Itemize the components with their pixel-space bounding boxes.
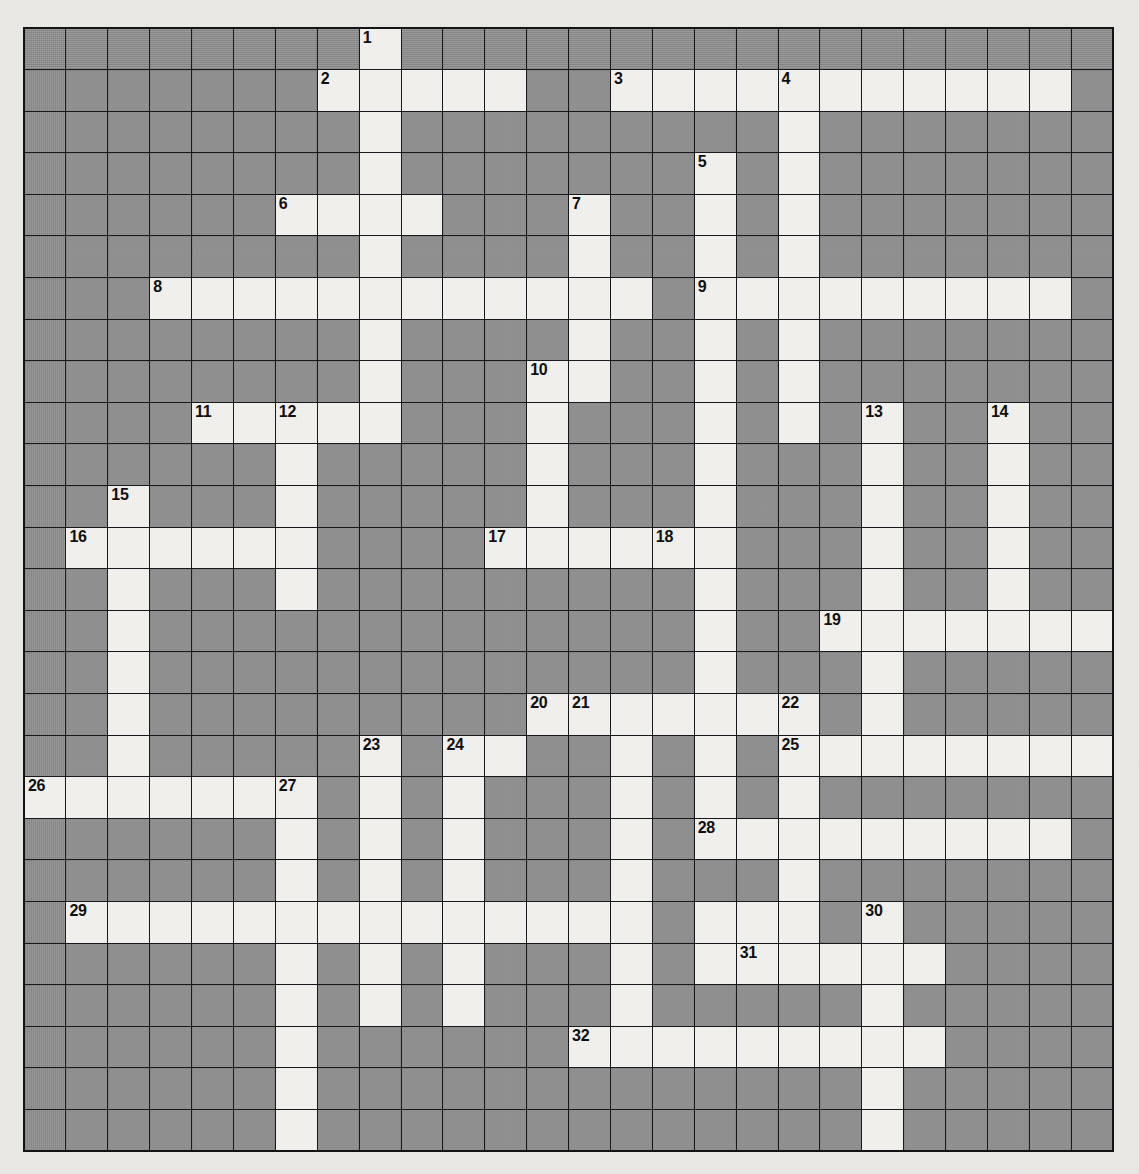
crossword-cell-open[interactable] [820, 943, 862, 985]
crossword-cell-open[interactable] [485, 901, 527, 943]
crossword-cell-open[interactable] [275, 486, 317, 528]
crossword-cell-open[interactable] [359, 153, 401, 195]
crossword-cell-open[interactable] [1029, 610, 1071, 652]
crossword-cell-open[interactable] [317, 278, 359, 320]
crossword-cell-open[interactable] [778, 111, 820, 153]
crossword-cell-open[interactable] [904, 278, 946, 320]
crossword-cell-open[interactable] [359, 860, 401, 902]
crossword-cell-open[interactable] [443, 818, 485, 860]
crossword-cell-open[interactable] [946, 610, 988, 652]
crossword-cell-open[interactable] [359, 236, 401, 278]
crossword-cell-open[interactable] [610, 943, 652, 985]
crossword-cell-open[interactable] [736, 1026, 778, 1068]
crossword-cell-open[interactable]: 18 [652, 527, 694, 569]
crossword-cell-open[interactable] [694, 943, 736, 985]
crossword-cell-open[interactable] [527, 486, 569, 528]
crossword-cell-open[interactable] [610, 527, 652, 569]
crossword-cell-open[interactable] [443, 777, 485, 819]
crossword-cell-open[interactable] [359, 319, 401, 361]
crossword-cell-open[interactable] [485, 70, 527, 112]
crossword-cell-open[interactable] [904, 610, 946, 652]
crossword-cell-open[interactable] [192, 278, 234, 320]
crossword-cell-open[interactable] [610, 1026, 652, 1068]
crossword-cell-open[interactable]: 3 [610, 70, 652, 112]
crossword-cell-open[interactable]: 19 [820, 610, 862, 652]
crossword-cell-open[interactable] [904, 818, 946, 860]
crossword-cell-open[interactable] [401, 70, 443, 112]
crossword-cell-open[interactable] [233, 901, 275, 943]
crossword-cell-open[interactable] [275, 985, 317, 1027]
crossword-cell-open[interactable] [987, 444, 1029, 486]
crossword-cell-open[interactable] [443, 985, 485, 1027]
crossword-cell-open[interactable] [359, 901, 401, 943]
crossword-cell-open[interactable] [736, 278, 778, 320]
crossword-cell-open[interactable] [108, 610, 150, 652]
crossword-cell-open[interactable]: 15 [108, 486, 150, 528]
crossword-cell-open[interactable] [862, 486, 904, 528]
crossword-cell-open[interactable] [946, 735, 988, 777]
crossword-cell-open[interactable] [610, 985, 652, 1027]
crossword-cell-open[interactable] [694, 901, 736, 943]
crossword-cell-open[interactable] [652, 1026, 694, 1068]
crossword-cell-open[interactable] [862, 985, 904, 1027]
crossword-cell-open[interactable]: 16 [66, 527, 108, 569]
crossword-cell-open[interactable] [359, 777, 401, 819]
crossword-cell-open[interactable] [150, 901, 192, 943]
crossword-cell-open[interactable] [987, 278, 1029, 320]
crossword-cell-open[interactable] [610, 278, 652, 320]
crossword-cell-open[interactable] [569, 319, 611, 361]
crossword-cell-open[interactable] [652, 70, 694, 112]
crossword-cell-open[interactable]: 29 [66, 901, 108, 943]
crossword-cell-open[interactable] [736, 901, 778, 943]
crossword-grid[interactable]: 1234567891011121314151617181920212223242… [23, 27, 1114, 1152]
crossword-cell-open[interactable] [862, 1026, 904, 1068]
crossword-cell-open[interactable] [275, 943, 317, 985]
crossword-cell-open[interactable] [569, 236, 611, 278]
crossword-cell-open[interactable]: 13 [862, 402, 904, 444]
crossword-cell-open[interactable] [778, 278, 820, 320]
crossword-cell-open[interactable] [862, 1109, 904, 1151]
crossword-cell-open[interactable]: 2 [317, 70, 359, 112]
crossword-cell-open[interactable] [862, 735, 904, 777]
crossword-cell-open[interactable]: 21 [569, 694, 611, 736]
crossword-cell-open[interactable] [359, 194, 401, 236]
crossword-cell-open[interactable] [862, 1068, 904, 1110]
crossword-cell-open[interactable]: 1 [359, 28, 401, 70]
crossword-cell-open[interactable] [778, 777, 820, 819]
crossword-cell-open[interactable] [1071, 610, 1113, 652]
crossword-cell-open[interactable] [108, 777, 150, 819]
crossword-cell-open[interactable] [233, 527, 275, 569]
crossword-cell-open[interactable] [569, 527, 611, 569]
crossword-cell-open[interactable] [527, 527, 569, 569]
crossword-cell-open[interactable] [275, 860, 317, 902]
crossword-cell-open[interactable] [610, 735, 652, 777]
crossword-cell-open[interactable] [359, 278, 401, 320]
crossword-cell-open[interactable] [862, 818, 904, 860]
crossword-cell-open[interactable] [275, 901, 317, 943]
crossword-cell-open[interactable] [569, 361, 611, 403]
crossword-cell-open[interactable] [694, 194, 736, 236]
crossword-cell-open[interactable] [443, 901, 485, 943]
crossword-cell-open[interactable] [317, 901, 359, 943]
crossword-cell-open[interactable] [904, 943, 946, 985]
crossword-cell-open[interactable] [987, 610, 1029, 652]
crossword-cell-open[interactable]: 24 [443, 735, 485, 777]
crossword-cell-open[interactable] [569, 278, 611, 320]
crossword-cell-open[interactable]: 5 [694, 153, 736, 195]
crossword-cell-open[interactable] [820, 735, 862, 777]
crossword-cell-open[interactable] [862, 278, 904, 320]
crossword-cell-open[interactable]: 28 [694, 818, 736, 860]
crossword-cell-open[interactable] [443, 70, 485, 112]
crossword-cell-open[interactable] [108, 694, 150, 736]
crossword-cell-open[interactable] [359, 818, 401, 860]
crossword-cell-open[interactable] [359, 361, 401, 403]
crossword-cell-open[interactable] [1029, 70, 1071, 112]
crossword-cell-open[interactable] [778, 1026, 820, 1068]
crossword-cell-open[interactable] [862, 444, 904, 486]
crossword-cell-open[interactable] [694, 652, 736, 694]
crossword-cell-open[interactable] [694, 70, 736, 112]
crossword-cell-open[interactable] [862, 569, 904, 611]
crossword-cell-open[interactable]: 10 [527, 361, 569, 403]
crossword-cell-open[interactable] [694, 569, 736, 611]
crossword-cell-open[interactable] [359, 985, 401, 1027]
